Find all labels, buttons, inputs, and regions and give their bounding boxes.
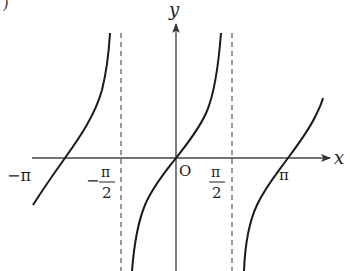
origin-label: O bbox=[179, 162, 191, 180]
tick-label-neg-pi: −π bbox=[7, 166, 31, 185]
corner-mark: ) bbox=[2, 0, 8, 12]
y-axis-label: y bbox=[168, 0, 180, 20]
tick-label-neg-pi-half-num: π bbox=[101, 164, 110, 180]
tick-label-neg-pi-half-sign: − bbox=[86, 171, 99, 190]
tick-label-pi: π bbox=[279, 166, 289, 184]
tick-label-pi-half-den: 2 bbox=[212, 184, 222, 202]
x-axis-label: x bbox=[334, 147, 344, 168]
tick-label-neg-pi-half-den: 2 bbox=[102, 184, 112, 202]
tick-label-pi-half-num: π bbox=[211, 164, 220, 180]
tan-branch-right bbox=[244, 98, 323, 271]
tangent-graph: ) y x O −π − π 2 π 2 π bbox=[0, 0, 350, 271]
